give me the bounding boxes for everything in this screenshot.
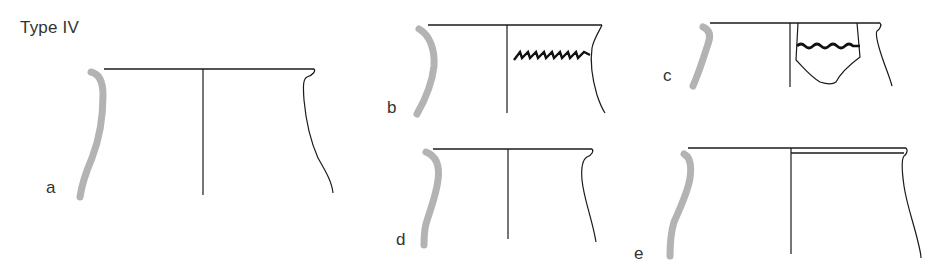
- vessel-c: [693, 23, 892, 87]
- vessel-d-section: [424, 152, 439, 245]
- vessel-b-section: [417, 29, 434, 114]
- vessel-d: [424, 149, 596, 245]
- vessel-a-section: [80, 72, 103, 197]
- vessel-e: [670, 148, 921, 258]
- vessel-c-sherd-outline: [796, 23, 860, 84]
- vessel-a-outline: [303, 69, 333, 193]
- vessel-b-outline: [591, 25, 605, 113]
- vessel-b-chevron-decoration: [514, 52, 590, 60]
- vessel-d-outline: [582, 149, 596, 242]
- vessel-a: [80, 69, 333, 197]
- vessel-c-section: [693, 27, 710, 86]
- vessel-c-outline: [876, 23, 892, 86]
- vessel-e-outline: [902, 148, 921, 258]
- vessel-b: [417, 25, 605, 114]
- vessel-e-section: [670, 154, 691, 256]
- vessel-c-wavy-band: [797, 44, 860, 48]
- pottery-profiles: [0, 0, 938, 278]
